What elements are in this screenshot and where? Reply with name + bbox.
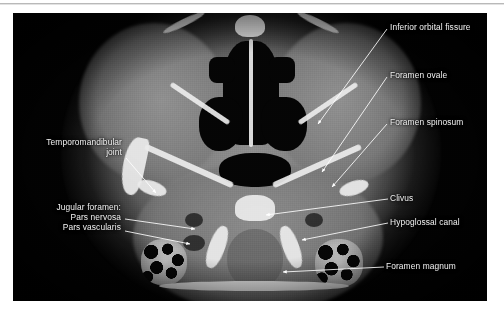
figure-root: Inferior orbital fissure Foramen ovale F… (0, 0, 504, 321)
right-jugular-foramen-air (305, 213, 323, 227)
page-top-rule-shadow (0, 4, 504, 5)
right-ethmoid-cells-air (269, 57, 295, 83)
nasal-septum-bone (249, 39, 253, 147)
left-jugular-foramen-vascular-air (183, 235, 205, 251)
clivus-bone (235, 195, 275, 221)
left-ethmoid-cells-air (209, 57, 235, 83)
ct-image-panel (13, 13, 487, 301)
nasal-bone (235, 15, 265, 37)
right-mastoid-air-cells (315, 239, 363, 287)
left-mastoid-air-cells (141, 239, 187, 285)
ct-scan-image (13, 13, 487, 301)
foramen-magnum-air (227, 229, 283, 289)
occipital-squama-bone (159, 281, 349, 291)
left-jugular-foramen-air (185, 213, 203, 227)
